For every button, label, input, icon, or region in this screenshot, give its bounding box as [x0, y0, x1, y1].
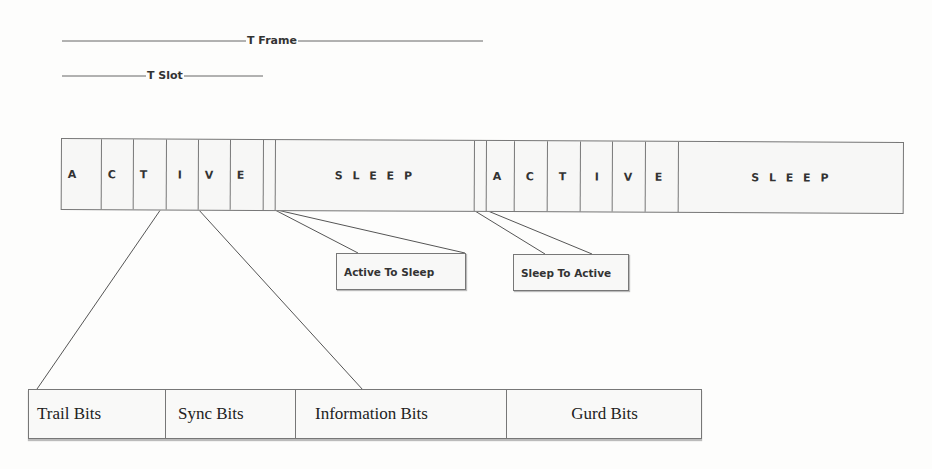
t-slot-label: T Slot	[146, 70, 184, 82]
active-to-sleep-pointer-2	[277, 210, 465, 253]
frame-cell-sleep: S L E E P	[276, 140, 475, 211]
sleep-to-active-pointer-2	[488, 211, 592, 254]
frame-cell-active-v-2: V	[613, 142, 646, 212]
frame-row: A C T I V E S L E E P A C T I V E S L E …	[61, 138, 904, 214]
frame-cell-active-c: C	[102, 139, 134, 209]
t-frame-label: T Frame	[246, 35, 298, 47]
frame-cell-active-a: A	[62, 139, 102, 209]
sleep-to-active-callout: Sleep To Active	[513, 254, 629, 291]
information-bits-field: Information Bits	[296, 390, 507, 438]
slot-expansion-left-line	[37, 209, 161, 389]
slot-bit-fields: Trail Bits Sync Bits Information Bits Gu…	[28, 389, 702, 439]
sleep-to-active-pointer-1	[475, 211, 545, 254]
frame-cell-active-i-2: I	[581, 141, 613, 211]
frame-cell-sleep-2: S L E E P	[679, 142, 904, 213]
gurd-bits-field: Gurd Bits	[507, 390, 702, 438]
active-to-sleep-label: Active To Sleep	[344, 266, 434, 278]
frame-cell-transition-sleep-to-active	[475, 141, 487, 211]
trail-bits-field: Trail Bits	[29, 390, 166, 438]
frame-cell-active-t-2: T	[548, 141, 581, 211]
frame-cell-transition-active-to-sleep	[264, 140, 276, 210]
sync-bits-field: Sync Bits	[166, 390, 296, 438]
frame-cell-active-t: T	[134, 139, 167, 209]
sleep-to-active-label: Sleep To Active	[521, 267, 611, 279]
frame-cell-active-i: I	[167, 139, 199, 209]
active-to-sleep-callout: Active To Sleep	[336, 253, 466, 290]
active-to-sleep-pointer-1	[275, 210, 358, 253]
frame-cell-active-v: V	[199, 140, 231, 210]
frame-cell-active-c-2: C	[515, 141, 548, 211]
frame-cell-active-e: E	[231, 140, 264, 210]
frame-cell-active-e-2: E	[646, 142, 679, 212]
slot-expansion-right-line	[198, 209, 363, 390]
frame-cell-active-a-2: A	[487, 141, 515, 211]
